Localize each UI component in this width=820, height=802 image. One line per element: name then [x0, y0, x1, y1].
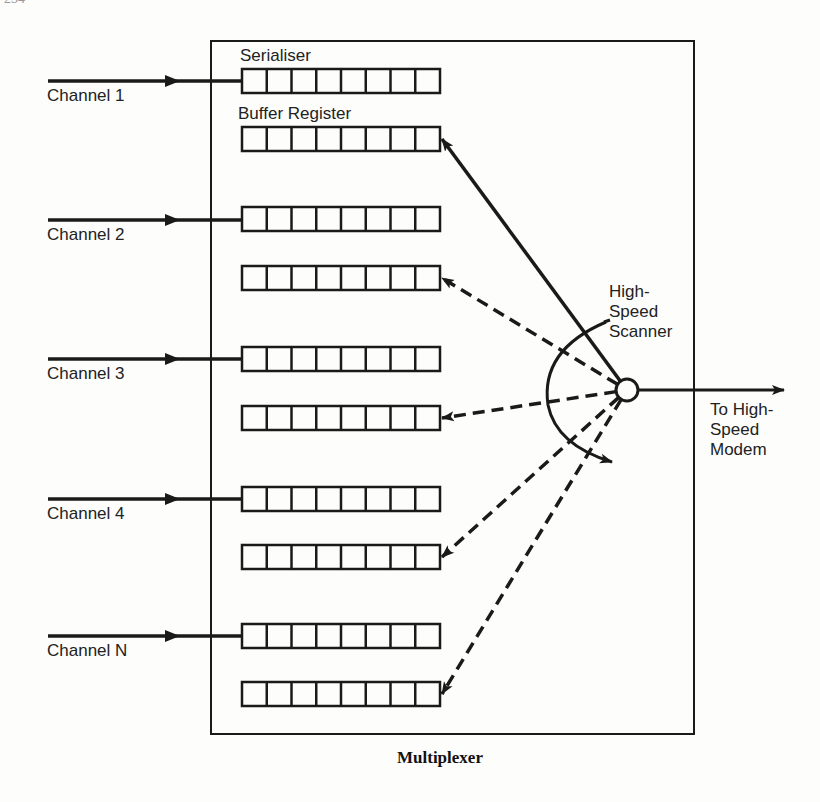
buffer-register: [242, 266, 440, 290]
serialiser-register: [242, 347, 440, 371]
scanner-hub: [616, 379, 638, 401]
multiplexer-diagram: [0, 0, 820, 802]
output-label-line-2: Speed: [710, 420, 773, 440]
channel-arrow-icon: [165, 75, 180, 87]
channel-arrow-icon: [165, 353, 180, 365]
buffer-register: [242, 127, 440, 151]
serialiser-register: [242, 207, 440, 231]
scanner-label-line-3: Scanner: [609, 322, 672, 342]
scanner-label: High- Speed Scanner: [609, 282, 672, 342]
figure-caption: Multiplexer: [397, 748, 483, 768]
active-scan-pointer: [442, 139, 620, 381]
channel-arrow-icon: [165, 493, 180, 505]
channel-label: Channel 4: [47, 504, 125, 524]
serialiser-register: [242, 487, 440, 511]
scanner-label-line-1: High-: [609, 282, 672, 302]
channel-label: Channel 3: [47, 364, 125, 384]
scanner-pointers: [442, 139, 621, 694]
scanner-label-line-2: Speed: [609, 302, 672, 322]
buffer-register: [242, 682, 440, 706]
channel-arrow-icon: [165, 630, 180, 642]
channels-layer: [48, 69, 440, 706]
buffer-register: [242, 406, 440, 430]
serialiser-register: [242, 624, 440, 648]
scanner-sweep-arc: [547, 322, 612, 462]
buffer-register: [242, 545, 440, 569]
output-label-line-1: To High-: [710, 400, 773, 420]
pending-scan-pointer: [442, 397, 619, 557]
channel-label: Channel 2: [47, 225, 125, 245]
serialiser-register: [242, 69, 440, 93]
buffer-register-label: Buffer Register: [238, 104, 351, 124]
pending-scan-pointer: [442, 399, 621, 694]
pending-scan-pointer: [442, 278, 618, 384]
serialiser-label: Serialiser: [240, 46, 311, 66]
output-label: To High- Speed Modem: [710, 400, 773, 460]
channel-arrow-icon: [165, 214, 180, 226]
output-label-line-3: Modem: [710, 440, 773, 460]
channel-label: Channel N: [47, 641, 127, 661]
pending-scan-pointer: [442, 392, 616, 418]
channel-label: Channel 1: [47, 86, 125, 106]
